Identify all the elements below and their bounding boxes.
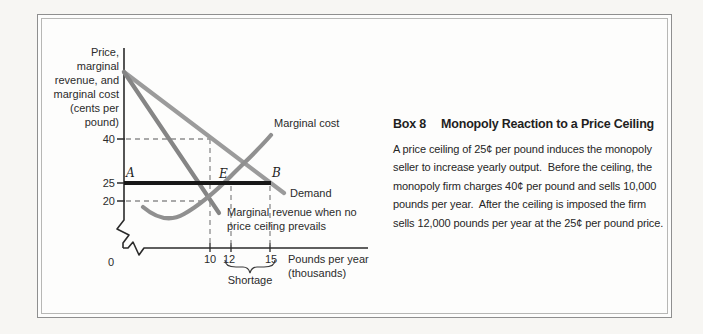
demand-curve (124, 72, 284, 193)
y-tick-25: 25 (103, 177, 115, 189)
y-axis-label-line-2: marginal (77, 60, 119, 72)
point-e-label: E (218, 167, 228, 181)
x-tick-12: 12 (223, 253, 235, 265)
point-a-label: A (125, 166, 135, 180)
caption-box-number: Box 8 (393, 117, 426, 131)
x-tick-0: 0 (108, 256, 114, 268)
y-tick-20: 20 (103, 195, 115, 207)
caption-title-text: Monopoly Reaction to a Price Ceiling (441, 117, 654, 131)
y-axis-label-line-6: pound) (85, 116, 119, 128)
demand-label: Demand (290, 187, 332, 199)
x-axis-label-line-1: Pounds per year (288, 253, 369, 265)
y-axis-label-line-3: revenue, and (55, 74, 119, 86)
x-tick-10: 10 (204, 253, 216, 265)
y-axis-label-line-1: Price, (91, 46, 119, 58)
box-caption: Box 8Monopoly Reaction to a Price Ceilin… (393, 117, 669, 232)
x-tick-15: 15 (265, 253, 277, 265)
x-axis-label-line-2: (thousands) (288, 267, 346, 279)
marginal-revenue-label-line-2: price ceiling prevails (227, 220, 327, 232)
shortage-label: Shortage (228, 274, 273, 286)
point-b-label: B (271, 166, 281, 180)
marginal-revenue-curve (124, 72, 219, 213)
marginal-cost-label: Marginal cost (274, 117, 339, 129)
y-axis-label-line-4: marginal cost (54, 88, 119, 100)
marginal-revenue-label-line-1: Marginal revenue when no (227, 206, 357, 218)
caption-body-text: A price ceiling of 25¢ per pound induces… (393, 140, 669, 232)
y-tick-40: 40 (103, 133, 115, 145)
y-axis-label-line-5: (cents per (70, 102, 119, 114)
caption-title: Box 8Monopoly Reaction to a Price Ceilin… (393, 117, 669, 131)
